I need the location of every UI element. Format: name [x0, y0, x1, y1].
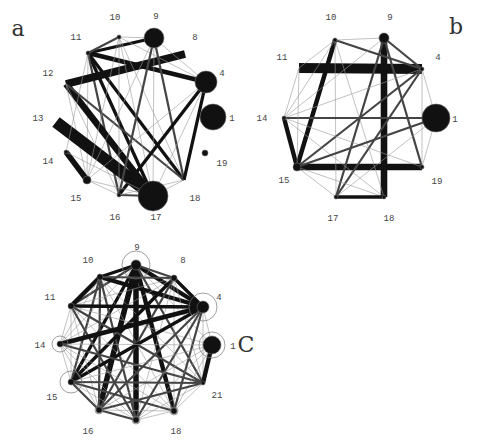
node-14 — [57, 341, 63, 347]
edges — [56, 37, 206, 196]
panel-letter-a: a — [11, 16, 24, 41]
node-18 — [382, 195, 386, 199]
node-21 — [201, 381, 205, 385]
node-label-9: 9 — [153, 12, 158, 22]
node-label-1: 1 — [230, 342, 235, 352]
node-label-17: 17 — [151, 213, 162, 223]
node-4 — [197, 301, 209, 313]
nodes — [282, 33, 450, 199]
node-10 — [117, 35, 121, 39]
node-label-19: 19 — [217, 159, 228, 169]
node-label-19: 19 — [432, 177, 443, 187]
edge-14-15 — [284, 118, 297, 167]
node-15 — [68, 379, 74, 385]
node-10 — [333, 38, 337, 42]
node-14 — [282, 116, 286, 120]
node-18 — [171, 408, 177, 414]
node-label-18: 18 — [190, 194, 201, 204]
node-label-1: 1 — [452, 115, 457, 125]
node-17 — [334, 195, 338, 199]
node-label-16: 16 — [83, 427, 94, 437]
node-15 — [83, 176, 91, 184]
edge-10-14 — [284, 40, 335, 118]
edge-15-17 — [297, 167, 336, 197]
edge-15-21 — [71, 382, 203, 383]
node-15 — [293, 163, 301, 171]
edge-15-18 — [297, 167, 384, 197]
node-10 — [97, 274, 103, 280]
panel-letter-b: b — [449, 14, 463, 39]
network-panel-c: 910811414115211618C — [35, 243, 255, 437]
node-4 — [420, 67, 424, 71]
node-label-11: 11 — [45, 293, 56, 303]
node-label-18: 18 — [171, 427, 182, 437]
node-label-14: 14 — [43, 157, 54, 167]
edge-10-9 — [335, 38, 384, 40]
node-16 — [117, 193, 121, 197]
node-9 — [379, 33, 389, 43]
node-label-4: 4 — [435, 53, 440, 63]
node-label-13: 13 — [33, 114, 44, 124]
node-1 — [422, 104, 450, 132]
node-17 — [138, 181, 168, 211]
node-label-15: 15 — [279, 176, 290, 186]
node-label-10: 10 — [326, 13, 337, 23]
node-label-17: 17 — [328, 214, 339, 224]
edges — [60, 265, 212, 420]
edge-12-8 — [66, 54, 185, 84]
node-label-14: 14 — [257, 114, 268, 124]
node-16 — [96, 407, 102, 413]
edge-15-16 — [87, 180, 119, 195]
edges — [284, 38, 436, 197]
node-label-11: 11 — [277, 53, 288, 63]
node-label-8: 8 — [180, 256, 185, 266]
network-panel-b: 10911414115191718b — [257, 13, 463, 224]
edge-21-16 — [99, 383, 203, 410]
edge-9-19 — [384, 38, 422, 167]
node-label-11: 11 — [71, 33, 82, 43]
node-label-15: 15 — [47, 393, 58, 403]
node-label-4: 4 — [219, 69, 224, 79]
node-label-10: 10 — [110, 13, 121, 23]
node-label-9: 9 — [387, 13, 392, 23]
node-label-15: 15 — [71, 194, 82, 204]
node-17 — [133, 417, 139, 423]
node-label-1: 1 — [229, 114, 234, 124]
node-19 — [202, 150, 208, 156]
node-9 — [131, 260, 141, 270]
node-1 — [203, 336, 221, 354]
edge-11-14 — [284, 68, 299, 118]
node-19 — [420, 165, 424, 169]
node-label-10: 10 — [83, 256, 94, 266]
node-8 — [171, 275, 177, 281]
edge-11-4 — [71, 306, 203, 307]
node-1 — [200, 104, 226, 130]
edge-4-17 — [336, 69, 422, 197]
network-figure: 109811412113191415181617a 10911414115191… — [0, 0, 489, 448]
edge-10-15 — [297, 40, 335, 167]
node-label-9: 9 — [134, 243, 139, 253]
node-label-14: 14 — [35, 341, 46, 351]
node-label-16: 16 — [110, 213, 121, 223]
node-label-12: 12 — [43, 69, 54, 79]
node-11 — [86, 51, 90, 55]
node-label-18: 18 — [384, 214, 395, 224]
edge-11-4 — [299, 68, 422, 69]
node-4 — [195, 71, 217, 93]
node-label-8: 8 — [192, 33, 197, 43]
node-14 — [64, 150, 68, 154]
node-9 — [144, 28, 164, 48]
panel-letter-c: C — [238, 332, 255, 357]
network-panel-a: 109811412113191415181617a — [11, 12, 234, 223]
edge-10-8 — [100, 277, 174, 278]
node-11 — [68, 303, 74, 309]
node-label-21: 21 — [212, 391, 223, 401]
node-label-4: 4 — [216, 293, 221, 303]
